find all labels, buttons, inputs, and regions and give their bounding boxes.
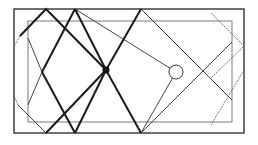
source-point <box>103 67 110 74</box>
reflection-diagram <box>0 0 258 145</box>
target-circle <box>169 65 183 79</box>
diagram-canvas <box>0 0 258 145</box>
